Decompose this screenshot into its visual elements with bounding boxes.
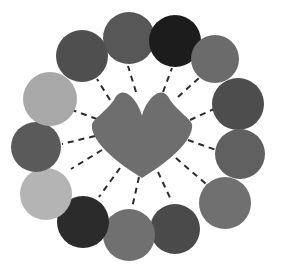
- node-circle-1[interactable]: Node 1: [103, 12, 155, 64]
- node-circle-8[interactable]: Node 8: [103, 209, 155, 261]
- node-circle-6[interactable]: Node 6: [199, 177, 251, 229]
- radial-diagram-canvas: Node 1Node 2Node 3Node 4Node 5Node 6Node…: [0, 0, 293, 280]
- node-circle-12[interactable]: Node 12: [23, 72, 77, 126]
- node-circle-4[interactable]: Node 4: [212, 78, 264, 130]
- diagram-svg: Node 1Node 2Node 3Node 4Node 5Node 6Node…: [0, 0, 293, 280]
- node-circle-10[interactable]: Node 10: [20, 168, 72, 220]
- node-circle-3[interactable]: Node 3: [191, 35, 239, 83]
- node-circle-5[interactable]: Node 5: [215, 129, 265, 179]
- node-circle-7[interactable]: Node 7: [150, 204, 200, 254]
- node-circle-13[interactable]: Node 13: [56, 30, 108, 82]
- node-circle-11[interactable]: Node 11: [11, 122, 61, 172]
